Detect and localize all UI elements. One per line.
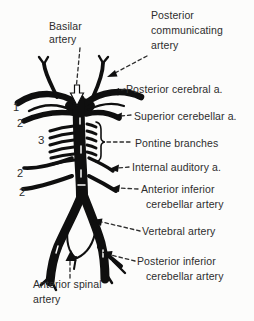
- label-internal-auditory: Internal auditory a.: [132, 161, 247, 174]
- aica-left-shape: [23, 176, 72, 189]
- marker-2-internal-auditory: 2: [17, 167, 23, 179]
- pcomm-left-fork2: [44, 57, 48, 64]
- label-posterior-inferior-cerebellar: Posterior inferior cerebellar artery: [137, 254, 234, 283]
- leader-superior-cerebellar: [121, 115, 131, 116]
- vertebral-left-shape: [50, 194, 82, 282]
- label-posterior-communicating-artery: Posterior communicating artery: [151, 8, 231, 53]
- marker-1-posterior-cerebral: 1: [13, 101, 19, 113]
- superior-cerebellar-left-shape: [24, 113, 78, 121]
- leader-posterior-communicating: [113, 56, 147, 74]
- label-basilar-artery: Basilar artery: [49, 20, 99, 46]
- pontine-bracket: [96, 122, 105, 162]
- leader-vertebral: [102, 222, 140, 231]
- marker-2-superior-cerebellar: 2: [17, 117, 23, 129]
- marker-2-aica: 2: [19, 186, 25, 198]
- label-posterior-cerebral: Posterior cerebral a.: [126, 83, 246, 96]
- marker-3-pontine: 3: [38, 134, 44, 146]
- label-anterior-inferior-cerebellar: Anterior inferior cerebellar artery: [141, 182, 234, 211]
- arrow-anterior-spinal: [66, 250, 77, 261]
- anatomy-figure: Basilar artery Posterior communicating a…: [0, 0, 254, 321]
- leader-basilar: [76, 48, 80, 90]
- label-vertebral-artery: Vertebral artery: [142, 225, 247, 238]
- leader-aica: [118, 188, 138, 189]
- label-pontine-branches: Pontine branches: [135, 137, 245, 150]
- internal-auditory-left-shape: [24, 158, 72, 168]
- pontine-branches-right: [87, 124, 96, 155]
- label-superior-cerebellar: Superior cerebellar a.: [134, 110, 252, 123]
- arrow-posterior-communicating: [107, 70, 118, 77]
- posterior-cerebral-left-shape: [18, 94, 79, 104]
- pcomm-right-fork2: [103, 57, 108, 63]
- label-anterior-spinal-artery: Anterior spinal artery: [33, 277, 113, 306]
- leader-internal-auditory: [117, 167, 129, 168]
